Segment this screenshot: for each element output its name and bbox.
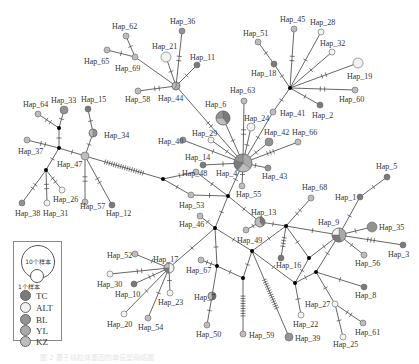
legend-size-1-circle <box>30 269 44 283</box>
haplotype-label: Hap_25 <box>333 340 358 349</box>
haplotype-node-hap-66 <box>295 139 301 145</box>
haplotype-label: Hap_33 <box>51 96 76 105</box>
median-vector-node <box>288 86 292 90</box>
median-vector-node <box>307 256 311 260</box>
haplotype-label: Hap_31 <box>43 209 68 218</box>
haplotype-label: Hap_1 <box>335 193 356 202</box>
mutation-tick <box>211 182 214 186</box>
haplotype-label: Hap_10 <box>115 290 140 299</box>
haplotype-label: Hap_49 <box>237 236 262 245</box>
mutation-tick <box>346 310 349 314</box>
haplotype-node-hap-43 <box>265 165 271 171</box>
haplotype-node-hap-32 <box>329 49 335 55</box>
haplotype-node-hap-52 <box>132 251 138 257</box>
legend-item-kz: KZ <box>20 336 48 347</box>
haplotype-node-hap-3 <box>400 242 406 248</box>
mutation-tick <box>296 299 301 300</box>
haplotype-label: Hap_24 <box>244 114 269 123</box>
median-vector-node <box>161 177 165 181</box>
haplotype-node-hap-35 <box>367 222 377 232</box>
legend-swatch-icon <box>20 336 31 347</box>
network-edge <box>135 57 176 86</box>
haplotype-label: Hap_14 <box>185 153 210 162</box>
haplotype-label: Hap_65 <box>84 57 109 66</box>
mutation-tick <box>226 149 229 153</box>
haplotype-node-hap-17 <box>164 263 174 273</box>
haplotype-label: Hap_30 <box>97 280 122 289</box>
haplotype-label: Hap_64 <box>23 100 48 109</box>
mutation-tick <box>45 118 48 122</box>
network-edge <box>110 268 169 274</box>
haplotype-label: Hap_9 <box>318 218 339 227</box>
mutation-tick <box>255 163 256 168</box>
haplotype-label: Hap_43 <box>262 172 287 181</box>
mutation-tick <box>280 75 284 78</box>
haplotype-label: Hap_53 <box>179 201 204 210</box>
haplotype-label: Hap_29 <box>192 129 217 138</box>
haplotype-node-hap-42 <box>265 138 273 146</box>
haplotype-network: Hap_4Hap_6Hap_63Hap_24Hap_42Hap_66Hap_43… <box>0 0 419 364</box>
haplotype-label: Hap_23 <box>158 298 183 307</box>
legend-item-alt: ALT <box>20 302 53 313</box>
haplotype-node-hap-50 <box>204 322 210 328</box>
median-vector-node <box>226 194 230 198</box>
haplotype-node-hap-39 <box>285 333 293 341</box>
network-edge <box>212 266 217 296</box>
mutation-tick <box>232 237 235 241</box>
haplotype-label: Hap_26 <box>53 195 78 204</box>
haplotype-node-hap-55 <box>239 183 245 189</box>
haplotype-label: Hap_6 <box>205 100 226 109</box>
mutation-tick <box>325 252 329 255</box>
haplotype-label: Hap_37 <box>18 147 43 156</box>
network-labels: Hap_4Hap_6Hap_63Hap_24Hap_42Hap_66Hap_43… <box>15 15 409 349</box>
haplotype-label: Hap_44 <box>158 94 183 103</box>
mutation-tick <box>322 245 325 249</box>
network-edge <box>22 170 46 203</box>
median-vector-node <box>215 264 219 268</box>
median-vector-node <box>44 168 48 172</box>
network-edge <box>176 86 243 163</box>
network-edge <box>46 170 47 203</box>
haplotype-node-hap-60 <box>352 87 358 93</box>
network-edge <box>281 226 286 258</box>
mutation-tick <box>268 236 271 240</box>
mutation-tick <box>273 222 274 227</box>
mutation-tick <box>349 313 352 317</box>
haplotype-node-hap-46 <box>197 213 203 219</box>
network-edge <box>138 86 176 91</box>
network-edge <box>243 101 244 163</box>
mutation-tick <box>141 268 142 273</box>
haplotype-label: Hap_68 <box>302 183 327 192</box>
haplotype-label: Hap_18 <box>251 69 276 78</box>
mutation-tick <box>49 120 52 124</box>
mutation-tick <box>33 183 37 186</box>
haplotype-label: Hap_35 <box>379 223 404 232</box>
haplotype-label: Hap_27 <box>305 300 330 309</box>
haplotype-label: Hap_16 <box>276 261 301 270</box>
haplotype-label: Hap_36 <box>170 17 195 26</box>
haplotype-node-hap-22 <box>298 312 304 318</box>
haplotype-node-hap-33 <box>60 106 68 114</box>
haplotype-node-hap-45 <box>291 26 297 32</box>
haplotype-label: Hap_54 <box>138 323 163 332</box>
haplotype-label: Hap_8 <box>355 291 376 300</box>
mutation-tick <box>272 265 275 269</box>
haplotype-node-hap-8 <box>361 284 367 290</box>
haplotype-node-hap-69 <box>132 54 138 60</box>
haplotype-node-hap-31 <box>44 200 50 206</box>
haplotype-node-hap-24 <box>247 123 255 131</box>
haplotype-node-hap-28 <box>318 29 324 35</box>
mutation-tick <box>280 246 285 247</box>
haplotype-label: Hap_69 <box>115 64 140 73</box>
haplotype-label: Hap_48 <box>182 169 207 178</box>
network-edge <box>290 88 355 90</box>
median-vector-node <box>284 224 288 228</box>
haplotype-label: Hap_22 <box>293 320 318 329</box>
haplotype-node-hap-12 <box>109 202 115 208</box>
mutation-tick <box>374 238 375 243</box>
haplotype-label: Hap_5 <box>376 162 397 171</box>
haplotype-node-hap-63 <box>241 98 247 104</box>
median-vector-node <box>241 276 245 280</box>
haplotype-node-hap-61 <box>360 320 366 326</box>
haplotype-node-hap-2 <box>317 102 323 108</box>
